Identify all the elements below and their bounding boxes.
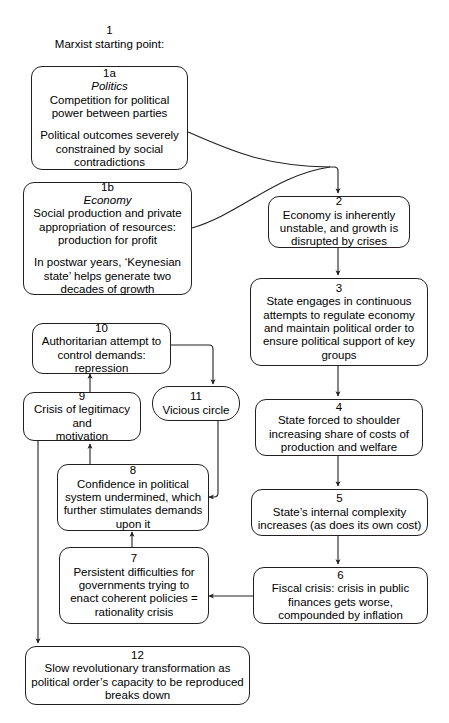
node-3[interactable]: 3 State engages in continuous attempts t…	[250, 278, 428, 366]
node-6-text: Fiscal crisis: crisis in public finances…	[269, 582, 412, 622]
node-11[interactable]: 11 Vicious circle	[152, 386, 240, 421]
node-2-text: Economy is inherently unstable, and grow…	[277, 209, 401, 249]
node-9[interactable]: 9 Crisis of legitimacy and motivation	[23, 392, 141, 441]
node-10[interactable]: 10 Authoritarian attempt to control dema…	[32, 323, 171, 374]
edge-junction-to-2	[330, 167, 338, 193]
node-2-number: 2	[336, 195, 342, 209]
node-8[interactable]: 8 Confidence in political system undermi…	[57, 464, 209, 531]
node-9-text: Crisis of legitimacy and motivation	[24, 403, 140, 443]
node-1a-text-secondary: Political outcomes severely constrained …	[37, 129, 182, 169]
node-12[interactable]: 12 Slow revolutionary transformation as …	[25, 646, 250, 705]
node-6-number: 6	[337, 569, 343, 583]
node-3-number: 3	[336, 282, 342, 296]
diagram-title-text: Marxist starting point:	[31, 38, 188, 51]
node-5-number: 5	[336, 492, 342, 506]
node-6[interactable]: 6 Fiscal crisis: crisis in public financ…	[253, 567, 428, 624]
node-8-text: Confidence in political system undermine…	[61, 478, 206, 531]
node-12-text: Slow revolutionary transformation as pol…	[28, 662, 246, 702]
node-4-text: State forced to shoulder increasing shar…	[266, 414, 412, 454]
node-1b-subtitle: Economy	[84, 194, 132, 207]
node-7-number: 7	[131, 552, 137, 566]
node-1b-text: Social production and private appropriat…	[30, 207, 184, 247]
node-9-number: 9	[79, 390, 85, 404]
node-10-number: 10	[95, 322, 108, 336]
node-4[interactable]: 4 State forced to shoulder increasing sh…	[255, 399, 423, 456]
node-1b[interactable]: 1b Economy Social production and private…	[23, 182, 192, 295]
node-10-text: Authoritarian attempt to control demands…	[39, 335, 165, 375]
node-12-number: 12	[131, 649, 144, 663]
node-4-number: 4	[336, 401, 342, 415]
node-11-number: 11	[190, 390, 202, 404]
node-1b-number: 1b	[101, 181, 114, 195]
edge-10-to-11	[171, 345, 213, 384]
diagram-canvas: 1 Marxist starting point: 1a Politics Co…	[0, 0, 449, 723]
node-1a[interactable]: 1a Politics Competition for political po…	[31, 66, 188, 170]
node-5-text: State’s internal complexity increases (a…	[255, 506, 425, 533]
node-7-text: Persistent difficulties for governments …	[67, 566, 201, 619]
diagram-title: 1 Marxist starting point:	[31, 24, 188, 51]
node-1a-subtitle: Politics	[91, 80, 127, 93]
edge-11-to-8	[209, 421, 218, 497]
edge-1a-to-2	[188, 132, 330, 167]
node-1a-number: 1a	[103, 67, 116, 81]
node-1a-text: Competition for political power between …	[47, 94, 173, 121]
node-11-text: Vicious circle	[160, 404, 233, 417]
node-3-text: State engages in continuous attempts to …	[260, 295, 418, 362]
node-2[interactable]: 2 Economy is inherently unstable, and gr…	[268, 196, 410, 248]
node-5[interactable]: 5 State’s internal complexity increases …	[251, 489, 428, 536]
node-1b-text-secondary: In postwar years, ‘Keynesian state’ help…	[31, 256, 184, 296]
diagram-title-number: 1	[31, 24, 188, 38]
node-8-number: 8	[130, 464, 136, 478]
node-7[interactable]: 7 Persistent difficulties for government…	[59, 547, 209, 624]
